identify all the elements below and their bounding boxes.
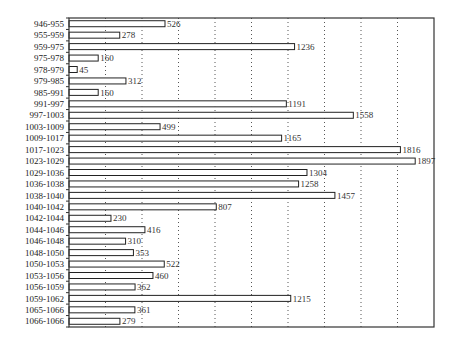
bar-value-label: 1191 xyxy=(288,99,306,109)
bar xyxy=(69,181,299,187)
bar-value-label: 160 xyxy=(100,88,114,98)
category-label: 1017-1023 xyxy=(25,145,64,155)
bar-value-label: 310 xyxy=(128,236,142,246)
category-label: 1042-1044 xyxy=(25,213,64,223)
bar xyxy=(69,67,77,73)
bar-value-label: 1165 xyxy=(284,133,302,143)
bar-value-label: 1558 xyxy=(355,110,374,120)
bar-value-label: 807 xyxy=(218,202,232,212)
bar-value-label: 460 xyxy=(155,271,169,281)
category-label: 1009-1017 xyxy=(25,133,64,143)
category-label: 985-991 xyxy=(34,88,64,98)
bar-value-label: 353 xyxy=(135,248,149,258)
bar xyxy=(69,261,164,267)
bar-value-label: 499 xyxy=(162,122,176,132)
category-labels: 946-955955-959959-975975-978978-979979-9… xyxy=(25,19,64,327)
bar-value-label: 1816 xyxy=(402,145,421,155)
category-label: 1050-1053 xyxy=(25,259,64,269)
category-label: 1036-1038 xyxy=(25,179,64,189)
bar xyxy=(69,158,415,164)
category-label: 1040-1042 xyxy=(25,202,64,212)
category-label: 1003-1009 xyxy=(25,122,64,132)
bar xyxy=(69,307,135,313)
bar-value-label: 522 xyxy=(166,259,180,269)
category-label: 1059-1062 xyxy=(25,294,64,304)
bar xyxy=(69,227,145,233)
bar xyxy=(69,124,160,130)
bar-value-label: 1215 xyxy=(293,294,312,304)
bar xyxy=(69,44,295,50)
bar xyxy=(69,273,153,279)
bar xyxy=(69,284,135,290)
bar-value-label: 230 xyxy=(113,213,127,223)
category-label: 1065-1066 xyxy=(25,305,64,315)
category-label: 997-1003 xyxy=(30,110,65,120)
category-label: 978-979 xyxy=(34,65,64,75)
bar xyxy=(69,147,400,153)
bar-value-label: 1236 xyxy=(297,42,316,52)
category-label: 1038-1040 xyxy=(25,191,64,201)
bar xyxy=(69,170,307,176)
bar-value-label: 1304 xyxy=(309,168,328,178)
bar-value-label: 45 xyxy=(79,65,89,75)
bar xyxy=(69,32,120,38)
category-label: 1023-1029 xyxy=(25,156,64,166)
bar xyxy=(69,250,133,256)
category-label: 1048-1050 xyxy=(25,248,64,258)
category-label: 991-997 xyxy=(34,99,64,109)
bar-value-label: 526 xyxy=(167,19,181,29)
bar xyxy=(69,78,126,84)
bar xyxy=(69,21,165,27)
category-label: 1044-1046 xyxy=(25,225,64,235)
bar-value-label: 1897 xyxy=(417,156,436,166)
category-label: 1046-1048 xyxy=(25,236,64,246)
bar xyxy=(69,295,291,301)
bar xyxy=(69,215,111,221)
category-label: 1056-1059 xyxy=(25,282,64,292)
bar-value-label: 160 xyxy=(100,53,114,63)
bar xyxy=(69,112,353,118)
bar-value-label: 279 xyxy=(122,316,136,326)
bar xyxy=(69,192,335,198)
bar-value-label: 312 xyxy=(128,76,142,86)
bar xyxy=(69,55,98,61)
bar-value-label: 416 xyxy=(147,225,161,235)
bar-value-label: 1258 xyxy=(301,179,320,189)
category-label: 1066-1066 xyxy=(25,316,64,326)
bar xyxy=(69,238,126,244)
chart-canvas: 5262781236160453121601191155849911651816… xyxy=(0,0,458,342)
category-label: 975-978 xyxy=(34,53,64,63)
category-label: 979-985 xyxy=(34,76,64,86)
bar-chart: 5262781236160453121601191155849911651816… xyxy=(0,0,458,342)
bar xyxy=(69,204,216,210)
bar-value-label: 362 xyxy=(137,282,151,292)
bar xyxy=(69,135,282,141)
category-label: 946-955 xyxy=(34,19,64,29)
category-label: 1053-1056 xyxy=(25,271,64,281)
bar-value-label: 361 xyxy=(137,305,151,315)
bar xyxy=(69,101,286,107)
category-label: 1029-1036 xyxy=(25,168,64,178)
bar xyxy=(69,89,98,95)
bars-group: 5262781236160453121601191155849911651816… xyxy=(69,19,436,327)
category-label: 959-975 xyxy=(34,42,64,52)
bar-value-label: 1457 xyxy=(337,191,356,201)
bar-value-label: 278 xyxy=(122,30,136,40)
bar xyxy=(69,318,120,324)
category-label: 955-959 xyxy=(34,30,64,40)
